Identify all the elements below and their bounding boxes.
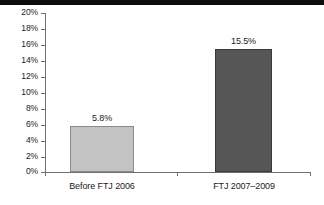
y-axis-tick xyxy=(41,77,45,78)
y-axis-line xyxy=(45,13,46,173)
y-axis-tick-label: 6% xyxy=(4,120,38,129)
bar-value-label-before-ftj-2006: 5.8% xyxy=(72,113,132,123)
y-axis-tick xyxy=(41,157,45,158)
y-axis-tick xyxy=(41,141,45,142)
bar-chart-plot-area: 20% 18% 16% 14% 12% 10% 8% 6% 4% 2% 0% 5… xyxy=(0,0,324,205)
bar-ftj-2007-2009 xyxy=(215,49,272,172)
y-axis-tick-label: 18% xyxy=(4,24,38,33)
y-axis-tick-label: 8% xyxy=(4,104,38,113)
y-axis-tick-label: 10% xyxy=(4,88,38,97)
bar-value-label-ftj-2007-2009: 15.5% xyxy=(215,36,272,46)
x-axis-category-label-ftj-2007-2009: FTJ 2007–2009 xyxy=(189,181,299,192)
x-axis-line xyxy=(45,172,311,173)
y-axis-tick-label: 14% xyxy=(4,56,38,65)
bar-before-ftj-2006 xyxy=(70,126,134,172)
x-axis-tick xyxy=(310,172,311,176)
y-axis-tick xyxy=(41,109,45,110)
y-axis-tick-label: 4% xyxy=(4,136,38,145)
x-axis-tick xyxy=(45,172,46,176)
y-axis-tick xyxy=(41,61,45,62)
y-axis-tick xyxy=(41,125,45,126)
y-axis-tick xyxy=(41,13,45,14)
x-axis-category-label-before-ftj-2006: Before FTJ 2006 xyxy=(47,181,157,192)
y-axis-tick-label: 12% xyxy=(4,72,38,81)
y-axis-tick-label: 20% xyxy=(4,8,38,17)
chart-page: 20% 18% 16% 14% 12% 10% 8% 6% 4% 2% 0% 5… xyxy=(0,0,324,205)
x-axis-tick xyxy=(177,172,178,176)
y-axis-tick-label: 2% xyxy=(4,152,38,161)
y-axis-tick xyxy=(41,29,45,30)
y-axis-tick xyxy=(41,93,45,94)
y-axis-tick-label: 0% xyxy=(4,167,38,176)
y-axis-tick-label: 16% xyxy=(4,40,38,49)
y-axis-tick xyxy=(41,45,45,46)
